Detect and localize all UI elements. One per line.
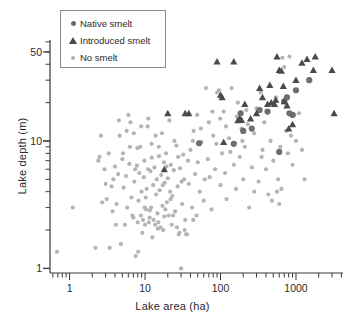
axis-lines (50, 40, 343, 273)
x-tick-label: 1 (67, 282, 73, 294)
x-tick-label: 100 (212, 282, 230, 294)
introduced-smelt-marker-icon (66, 37, 80, 44)
x-axis-title: Lake area (ha) (0, 300, 345, 312)
native-smelt-marker-icon (66, 21, 80, 26)
legend-label-native-smelt: Native smelt (80, 18, 132, 29)
legend-label-introduced-smelt: Introduced smelt (80, 35, 150, 46)
plot-canvas (0, 0, 345, 326)
legend-item-introduced-smelt: Introduced smelt (66, 32, 160, 49)
legend-label-no-smelt: No smelt (80, 52, 117, 63)
legend-item-native-smelt: Native smelt (66, 15, 160, 32)
x-tick-label: 1000 (284, 282, 307, 294)
y-axis-title: Lake depth (m) (16, 76, 28, 236)
scatter-plot-figure: 1101001000 11050 Lake area (ha) Lake dep… (0, 0, 345, 326)
x-tick-label: 10 (139, 282, 151, 294)
no-smelt-marker-icon (66, 56, 80, 60)
x-axis-ticks (53, 273, 342, 280)
y-tick-label: 50 (18, 46, 42, 58)
y-axis-ticks (43, 42, 50, 269)
series-introduced-smelt-points (161, 53, 338, 172)
y-tick-label: 1 (18, 262, 42, 274)
legend-item-no-smelt: No smelt (66, 49, 160, 66)
legend: Native smelt Introduced smelt No smelt (60, 10, 166, 68)
